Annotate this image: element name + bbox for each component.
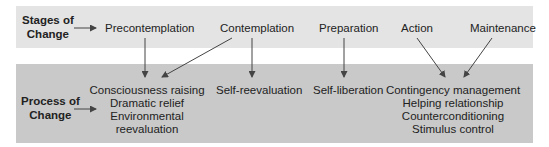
- arrows: [0, 0, 549, 147]
- arrow-action: [417, 38, 445, 77]
- arrow-maintenance: [464, 38, 492, 77]
- arrow-contemplation-diag: [162, 38, 232, 77]
